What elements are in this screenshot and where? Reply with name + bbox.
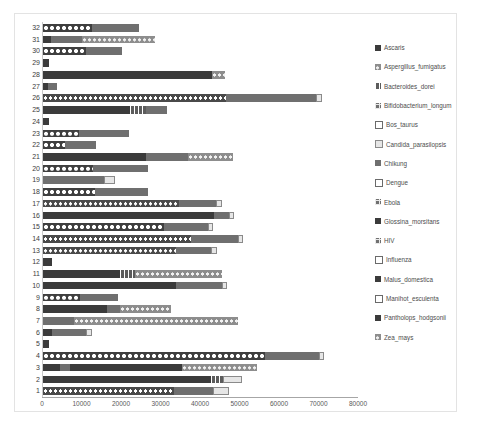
y-tick-label: 20 [18, 164, 40, 173]
bar-segment [43, 153, 146, 161]
bar-segment [265, 352, 318, 360]
bar-segment [43, 340, 49, 348]
stacked-bar [43, 340, 49, 348]
legend-item[interactable]: Ascaris [375, 38, 477, 57]
bar-segment [43, 106, 130, 114]
legend-swatch-icon [375, 45, 381, 51]
bar-segment [316, 94, 322, 102]
stacked-bar [43, 305, 171, 313]
bar-segment [65, 141, 96, 149]
legend-item[interactable]: Dengue [375, 173, 477, 192]
legend-item[interactable]: Influenza [375, 250, 477, 269]
x-tick-label: 60000 [270, 400, 288, 407]
legend-label: Chikung [384, 160, 407, 167]
stacked-bar [43, 387, 229, 395]
legend-swatch-icon [375, 103, 381, 109]
bar-segment [135, 270, 222, 278]
legend-label: Malus_domestica [384, 276, 433, 283]
stacked-bar [43, 24, 139, 32]
legend-label: Bifidobacterium_longum [384, 102, 452, 109]
stacked-bar [43, 47, 122, 55]
stacked-bar [43, 83, 57, 91]
legend-swatch-icon [375, 64, 381, 70]
bar-segment [43, 352, 265, 360]
y-tick-label: 30 [18, 46, 40, 55]
legend-item[interactable]: Bifidobacterium_longum [375, 96, 477, 115]
plot-area: 3231302928272625242322212019181716151413… [42, 22, 358, 397]
y-tick-label: 22 [18, 140, 40, 149]
bar-segment [216, 200, 222, 208]
legend-swatch-icon [375, 160, 381, 166]
y-tick-label: 14 [18, 234, 40, 243]
legend-label: Zea_mays [384, 334, 413, 341]
y-tick-label: 12 [18, 257, 40, 266]
y-tick-label: 15 [18, 222, 40, 231]
stacked-bar [43, 106, 167, 114]
legend-item[interactable]: Candida_parasilopsis [375, 134, 477, 153]
stacked-bar [43, 352, 324, 360]
bar-segment [208, 223, 214, 231]
bar-segment [43, 376, 211, 384]
legend-swatch-icon [375, 276, 381, 282]
bar-segment [92, 24, 139, 32]
bar-segment [146, 106, 166, 114]
legend-label: Dengue [386, 179, 408, 186]
legend-label: Pantholops_hodgsonii [384, 314, 446, 321]
stacked-bar [43, 329, 92, 337]
bar-segment [43, 71, 212, 79]
y-tick-label: 3 [18, 363, 40, 372]
y-tick-label: 8 [18, 304, 40, 313]
bar-segment [226, 94, 316, 102]
bar-segment [43, 200, 179, 208]
legend-swatch-icon [375, 179, 383, 187]
legend-swatch-icon [375, 83, 381, 89]
stacked-bar [43, 141, 96, 149]
legend-swatch-icon [375, 256, 383, 264]
x-tick-label: 30000 [151, 400, 169, 407]
y-tick-label: 10 [18, 281, 40, 290]
bar-segment [176, 282, 222, 290]
legend-label: Bacteroides_dorei [384, 83, 435, 90]
bar-segment [43, 282, 176, 290]
legend-item[interactable]: Zea_mays [375, 327, 477, 346]
y-tick-label: 9 [18, 293, 40, 302]
bar-segment [43, 317, 74, 325]
legend-swatch-icon [375, 199, 381, 205]
legend-label: Ebola [384, 199, 400, 206]
stacked-bar [43, 212, 234, 220]
y-tick-label: 18 [18, 187, 40, 196]
stacked-bar [43, 200, 222, 208]
stacked-bar [43, 176, 115, 184]
stacked-bar [43, 376, 242, 384]
stacked-bar [43, 130, 129, 138]
bar-segment [48, 83, 57, 91]
bar-segment [80, 294, 118, 302]
legend-item[interactable]: Bacteroides_dorei [375, 77, 477, 96]
bar-segment [182, 364, 257, 372]
legend-item[interactable]: HIV [375, 231, 477, 250]
legend-item[interactable]: Ebola [375, 192, 477, 211]
bar-segment [179, 200, 216, 208]
x-tick-label: 0 [40, 400, 44, 407]
bar-segment [130, 106, 146, 114]
legend-swatch-icon [375, 315, 381, 321]
bar-segment [43, 188, 95, 196]
legend-item[interactable]: Manihot_esculenta [375, 289, 477, 308]
bar-segment [188, 153, 233, 161]
stacked-bar [43, 317, 238, 325]
legend-item[interactable]: Bos_taurus [375, 115, 477, 134]
legend-item[interactable]: Malus_domestica [375, 270, 477, 289]
legend-item[interactable]: Aspergillus_fumigatus [375, 57, 477, 76]
y-tick-label: 32 [18, 23, 40, 32]
legend-item[interactable]: Chikung [375, 154, 477, 173]
legend-item[interactable]: Glossina_morsitans [375, 212, 477, 231]
y-tick-label: 7 [18, 316, 40, 325]
y-tick-label: 19 [18, 175, 40, 184]
bar-segment [43, 387, 174, 395]
legend-item[interactable]: Pantholops_hodgsonii [375, 308, 477, 327]
stacked-bar [43, 364, 257, 372]
legend-label: Influenza [386, 256, 412, 263]
stacked-bar [43, 71, 225, 79]
x-tick-label: 80000 [349, 400, 367, 407]
stacked-bar [43, 188, 148, 196]
